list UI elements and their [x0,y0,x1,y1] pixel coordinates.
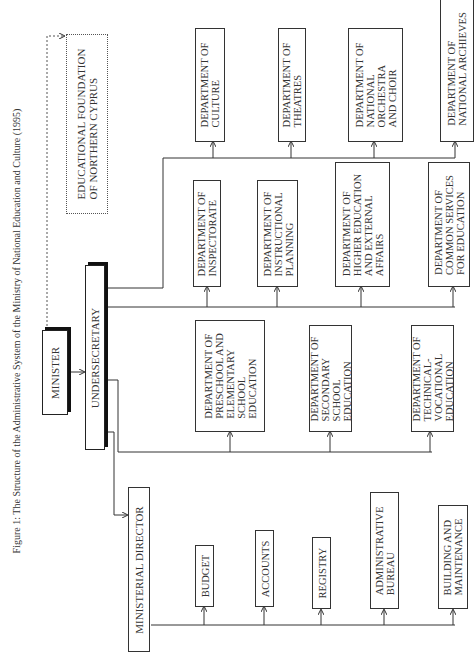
edge-undersecretary-director [106,432,127,515]
edge-minister-foundation [47,36,64,330]
node-label: DEPARTMENT OF PRESCHOOL AND ELEMENTARY S… [203,333,258,419]
node-label: DEPARTMENT OF NATIONAL ORCHESTRA AND CHO… [354,43,398,128]
node-minister: MINISTER [42,330,68,415]
node-budget: BUDGET [195,545,214,607]
node-inspectorate: DEPARTMENT OF INSPECTORATE [193,180,221,287]
node-label: DEPARTMENT OF TECHNICAL- VOCATIONAL EDUC… [411,336,455,421]
node-administrative-bureau: ADMINISTRATIVE BUREAU [370,492,399,609]
node-label: EDUCATIONAL FOUNDATION OF NORTHERN CYPRU… [75,49,99,200]
node-accounts: ACCOUNTS [255,530,274,607]
node-culture: DEPARTMENT OF CULTURE [195,28,225,142]
node-label: BUDGET [199,555,210,598]
node-national-orchestra: DEPARTMENT OF NATIONAL ORCHESTRA AND CHO… [348,28,403,142]
node-technical-vocational: DEPARTMENT OF TECHNICAL- VOCATIONAL EDUC… [411,325,454,432]
node-label: DEPARTMENT OF INSTRUCTIONAL PLANNING [261,191,294,276]
node-label: BUILDING AND MAINTENANCE [442,519,464,596]
node-undersecretary: UNDERSECRETARY [85,265,105,450]
node-higher-education: DEPARTMENT OF HIGHER EDUCATION AND EXTER… [335,162,390,287]
node-registry: REGISTRY [312,537,331,609]
node-ministerial-director: MINISTERIAL DIRECTOR [128,487,150,652]
node-label: REGISTRY [316,548,327,599]
node-label: DEPARTMENT OF COMMON SERVICES FOR EDUCAT… [433,175,466,275]
node-common-services: DEPARTMENT OF COMMON SERVICES FOR EDUCAT… [428,162,470,287]
bus-col2 [106,380,432,452]
node-preschool-elementary: DEPARTMENT OF PRESCHOOL AND ELEMENTARY S… [195,320,265,432]
node-instructional-planning: DEPARTMENT OF INSTRUCTIONAL PLANNING [257,180,298,287]
node-label: ACCOUNTS [259,540,270,597]
node-label: DEPARTMENT OF HIGHER EDUCATION AND EXTER… [341,173,385,275]
node-label: DEPARTMENT OF THEATRES [281,43,303,128]
node-secondary-school: DEPARTMENT OF SECONDARY SCHOOL EDUCATION [309,325,352,432]
node-label: MINISTERIAL DIRECTOR [134,506,145,633]
node-theatres: DEPARTMENT OF THEATRES [278,28,306,142]
node-educational-foundation: EDUCATIONAL FOUNDATION OF NORTHERN CYPRU… [66,34,108,214]
node-label: DEPARTMENT OF SECONDARY SCHOOL EDUCATION [309,336,353,421]
node-national-archives: DEPARTMENT OF NATIONAL ARCHIEVES [440,0,474,142]
node-label: DEPARTMENT OF CULTURE [199,43,221,128]
node-label: ADMINISTRATIVE BUREAU [374,506,396,595]
node-label: MINISTER [50,347,61,399]
node-label: DEPARTMENT OF INSPECTORATE [196,191,218,276]
node-label: UNDERSECRETARY [90,307,101,408]
node-building-maintenance: BUILDING AND MAINTENANCE [438,505,468,609]
node-label: DEPARTMENT OF NATIONAL ARCHIEVES [446,12,468,126]
